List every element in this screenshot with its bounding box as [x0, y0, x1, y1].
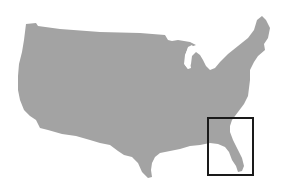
contiguous-us-landmass	[18, 16, 270, 178]
us-map	[0, 0, 283, 191]
